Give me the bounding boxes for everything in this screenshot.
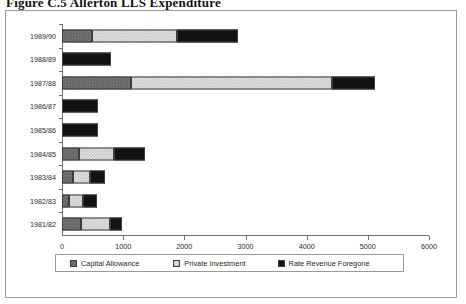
bar-segment-capital-allowance <box>62 76 131 89</box>
bar-segment-rate-revenue-foregone <box>62 53 111 66</box>
plot-area: 1989/901988/891987/881986/871985/861984/… <box>62 24 429 236</box>
y-tick-label-1984-85: 1984/85 <box>30 149 56 158</box>
x-tick-mark <box>184 236 185 240</box>
bar-row <box>62 29 429 42</box>
bar-segment-rate-revenue-foregone <box>83 194 96 207</box>
bar-segment-capital-allowance <box>62 171 73 184</box>
legend-item-private-investment: Private Investment <box>173 259 245 268</box>
x-tick-label-4000: 4000 <box>299 242 315 251</box>
x-tick-mark <box>123 236 124 240</box>
bar-segment-rate-revenue-foregone <box>62 124 98 137</box>
x-tick-label-2000: 2000 <box>176 242 192 251</box>
x-tick-label-6000: 6000 <box>421 242 437 251</box>
legend-label: Capital Allowance <box>81 259 139 268</box>
x-tick-label-0: 0 <box>60 242 64 251</box>
y-tick-mark <box>59 95 62 96</box>
y-tick-mark <box>59 212 62 213</box>
bar-segment-capital-allowance <box>62 218 81 231</box>
bar-segment-rate-revenue-foregone <box>90 171 105 184</box>
y-tick-label-1989-90: 1989/90 <box>30 31 56 40</box>
bar-row <box>62 76 429 89</box>
bar-segment-rate-revenue-foregone <box>177 29 238 42</box>
x-tick-label-5000: 5000 <box>360 242 376 251</box>
y-tick-label-1985-86: 1985/86 <box>30 126 56 135</box>
x-tick-mark <box>307 236 308 240</box>
y-tick-mark <box>59 189 62 190</box>
bar-segment-rate-revenue-foregone <box>110 218 122 231</box>
bar-segment-private-investment <box>92 29 177 42</box>
x-tick-mark <box>246 236 247 240</box>
y-tick-mark <box>59 118 62 119</box>
bar-segment-private-investment <box>69 194 83 207</box>
x-tick-label-1000: 1000 <box>115 242 131 251</box>
legend-label: Rate Revenue Foregone <box>289 259 370 268</box>
bar-row <box>62 147 429 160</box>
bar-row <box>62 171 429 184</box>
y-tick-mark <box>59 48 62 49</box>
y-tick-label-1987-88: 1987/88 <box>30 78 56 87</box>
y-tick-label-1982-83: 1982/83 <box>30 196 56 205</box>
x-tick-label-3000: 3000 <box>238 242 254 251</box>
bar-segment-private-investment <box>73 171 90 184</box>
private-investment-swatch <box>173 260 180 267</box>
bar-segment-rate-revenue-foregone <box>332 76 374 89</box>
y-tick-mark <box>59 165 62 166</box>
capital-allowance-swatch <box>70 260 77 267</box>
bar-segment-capital-allowance <box>62 194 69 207</box>
legend-item-rate-revenue-foregone: Rate Revenue Foregone <box>278 259 370 268</box>
y-tick-label-1981-82: 1981/82 <box>30 220 56 229</box>
rate-revenue-foregone-swatch <box>278 260 285 267</box>
y-tick-label-1986-87: 1986/87 <box>30 102 56 111</box>
bar-segment-capital-allowance <box>62 147 79 160</box>
bar-row <box>62 100 429 113</box>
bar-row <box>62 194 429 207</box>
bar-row <box>62 53 429 66</box>
bar-segment-capital-allowance <box>62 29 92 42</box>
y-tick-mark <box>59 71 62 72</box>
bar-segment-rate-revenue-foregone <box>62 100 98 113</box>
x-tick-mark <box>368 236 369 240</box>
legend-item-capital-allowance: Capital Allowance <box>70 259 139 268</box>
x-tick-mark <box>429 236 430 240</box>
y-tick-mark <box>59 142 62 143</box>
bar-row <box>62 218 429 231</box>
bar-row <box>62 124 429 137</box>
legend-label: Private Investment <box>184 259 245 268</box>
y-tick-label-1983-84: 1983/84 <box>30 173 56 182</box>
bar-segment-private-investment <box>79 147 114 160</box>
bar-segment-private-investment <box>81 218 110 231</box>
y-tick-label-1988-89: 1988/89 <box>30 55 56 64</box>
chart-legend: Capital AllowancePrivate InvestmentRate … <box>55 254 404 272</box>
bar-segment-private-investment <box>131 76 332 89</box>
y-tick-mark <box>59 24 62 25</box>
bar-segment-rate-revenue-foregone <box>114 147 145 160</box>
